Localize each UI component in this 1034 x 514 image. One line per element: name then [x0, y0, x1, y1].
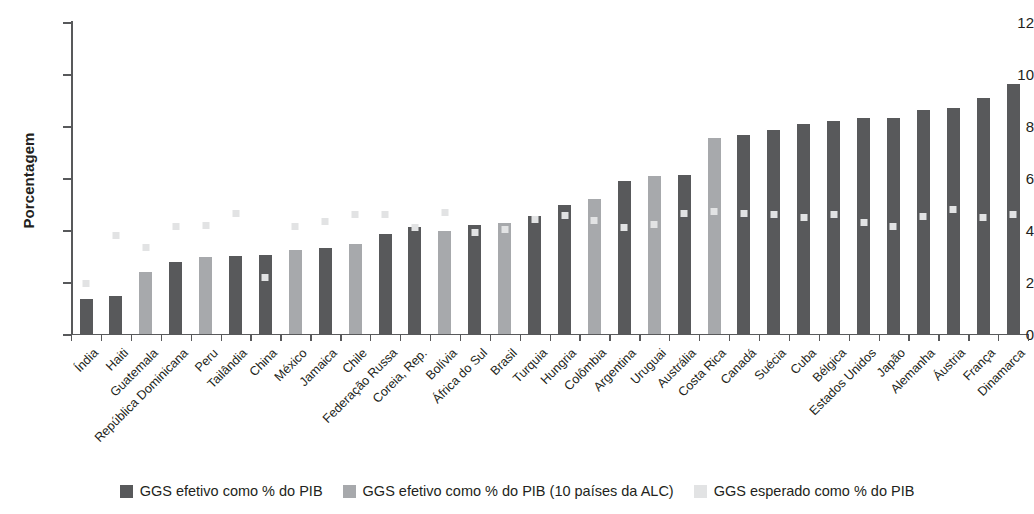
expected-value-marker — [890, 223, 897, 230]
bar — [408, 227, 421, 334]
y-axis-tick — [63, 22, 71, 24]
y-axis-tick — [63, 334, 71, 336]
y-axis-title: Porcentagem — [20, 91, 37, 271]
legend-item[interactable]: GGS efetivo como % do PIB — [120, 483, 323, 499]
expected-value-marker — [830, 211, 837, 218]
x-axis-tick — [250, 334, 251, 341]
bar — [80, 299, 93, 334]
x-axis-tick — [938, 334, 939, 341]
bar-chart: Porcentagem 024681012 ÍndiaHaitiGuatemal… — [0, 0, 1034, 514]
expected-value-marker — [800, 214, 807, 221]
x-axis-tick — [789, 334, 790, 341]
expected-value-marker — [980, 214, 987, 221]
bar — [1007, 84, 1020, 334]
x-axis-tick — [699, 334, 700, 341]
bar — [259, 255, 272, 334]
bar — [797, 124, 810, 334]
x-axis-tick — [879, 334, 880, 341]
x-axis-tick — [908, 334, 909, 341]
bar — [558, 205, 571, 335]
x-axis-tick — [71, 334, 72, 341]
expected-value-marker — [382, 211, 389, 218]
y-axis-tick — [63, 178, 71, 180]
bar — [737, 135, 750, 334]
x-axis-tick — [280, 334, 281, 341]
expected-value-marker — [651, 221, 658, 228]
x-axis-tick — [490, 334, 491, 341]
legend-item-label: GGS esperado como % do PIB — [714, 483, 915, 499]
bar — [109, 296, 122, 334]
legend-item-label: GGS efetivo como % do PIB — [140, 483, 323, 499]
legend-swatch-expected — [694, 485, 707, 498]
y-axis-tick — [63, 74, 71, 76]
x-axis-tick — [161, 334, 162, 341]
x-axis-tick — [400, 334, 401, 341]
bar — [528, 216, 541, 334]
x-axis-tick — [849, 334, 850, 341]
expected-value-marker — [950, 206, 957, 213]
x-axis-label-text: Índia — [72, 346, 101, 375]
bar — [618, 181, 631, 334]
expected-value-marker — [172, 223, 179, 230]
x-axis-tick — [669, 334, 670, 341]
expected-value-marker — [262, 274, 269, 281]
expected-value-marker — [561, 212, 568, 219]
x-axis-tick — [340, 334, 341, 341]
y-axis-tick — [63, 126, 71, 128]
y-axis-tick — [63, 282, 71, 284]
expected-value-marker — [621, 224, 628, 231]
expected-value-marker — [770, 211, 777, 218]
legend-swatch-lac — [343, 485, 356, 498]
bar — [767, 130, 780, 334]
x-axis-tick — [221, 334, 222, 341]
x-axis-tick — [430, 334, 431, 341]
bar — [319, 248, 332, 334]
x-axis-tick — [550, 334, 551, 341]
expected-value-marker — [322, 218, 329, 225]
x-axis-tick — [729, 334, 730, 341]
expected-value-marker — [681, 210, 688, 217]
y-axis-tick — [63, 230, 71, 232]
plot-area — [71, 22, 1028, 334]
bar — [379, 234, 392, 334]
x-axis-tick — [191, 334, 192, 341]
x-axis-tick — [1028, 334, 1029, 341]
chart-legend: GGS efetivo como % do PIBGGS efetivo com… — [0, 483, 1034, 499]
x-axis-label-text: Áustria — [931, 346, 969, 384]
x-axis-tick — [759, 334, 760, 341]
expected-value-marker — [202, 222, 209, 229]
expected-value-marker — [142, 244, 149, 251]
x-axis-tick — [819, 334, 820, 341]
expected-value-marker — [83, 280, 90, 287]
legend-item[interactable]: GGS efetivo como % do PIB (10 países da … — [343, 483, 674, 499]
expected-value-marker — [501, 226, 508, 233]
expected-value-marker — [232, 210, 239, 217]
expected-value-marker — [471, 229, 478, 236]
expected-value-marker — [112, 232, 119, 239]
expected-value-marker — [1010, 211, 1017, 218]
bar — [229, 256, 242, 334]
legend-item[interactable]: GGS esperado como % do PIB — [694, 483, 915, 499]
bar — [917, 110, 930, 334]
expected-value-marker — [292, 223, 299, 230]
legend-swatch-effective — [120, 485, 133, 498]
x-axis-label: Áustria — [931, 346, 968, 383]
expected-value-marker — [352, 211, 359, 218]
x-axis-tick — [310, 334, 311, 341]
bar — [648, 176, 661, 334]
expected-value-marker — [711, 208, 718, 215]
bar — [199, 257, 212, 335]
x-axis-tick — [520, 334, 521, 341]
x-axis-tick — [101, 334, 102, 341]
x-axis-tick — [579, 334, 580, 341]
bar — [678, 175, 691, 334]
bar — [438, 231, 451, 334]
legend-item-label: GGS efetivo como % do PIB (10 países da … — [363, 483, 674, 499]
expected-value-marker — [591, 217, 598, 224]
bar — [827, 121, 840, 334]
bar — [169, 262, 182, 334]
x-axis-tick — [639, 334, 640, 341]
expected-value-marker — [531, 216, 538, 223]
bar — [468, 225, 481, 334]
bar — [349, 244, 362, 335]
